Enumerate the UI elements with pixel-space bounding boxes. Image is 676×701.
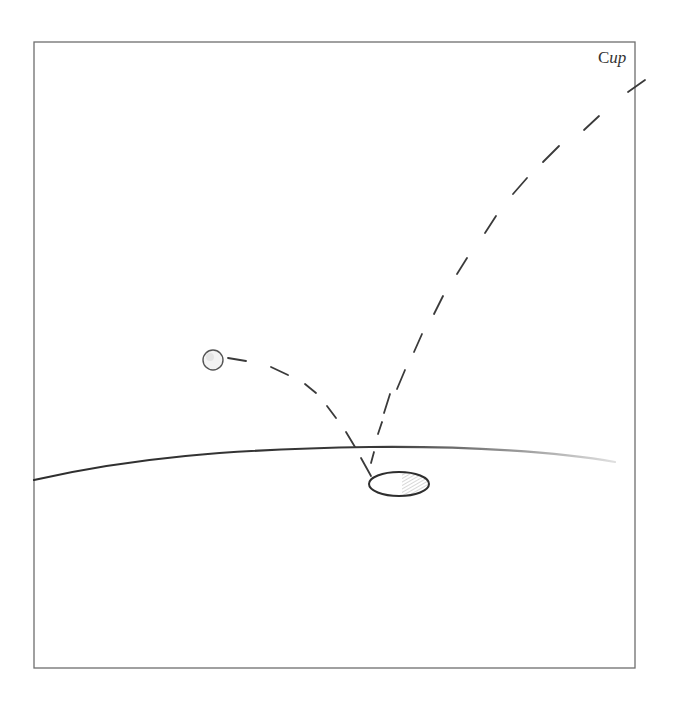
cup-label-prefix: C (598, 48, 609, 67)
trajectory-ball-to-hole (228, 358, 371, 476)
cup-label-suffix: up (609, 48, 626, 67)
ground-line (34, 447, 615, 480)
trajectory-hole-to-cup (371, 80, 645, 463)
cup-label: Cup (598, 49, 626, 66)
frame-border (34, 42, 635, 668)
ball-icon (203, 350, 223, 370)
golf-trajectory-diagram (0, 0, 676, 701)
